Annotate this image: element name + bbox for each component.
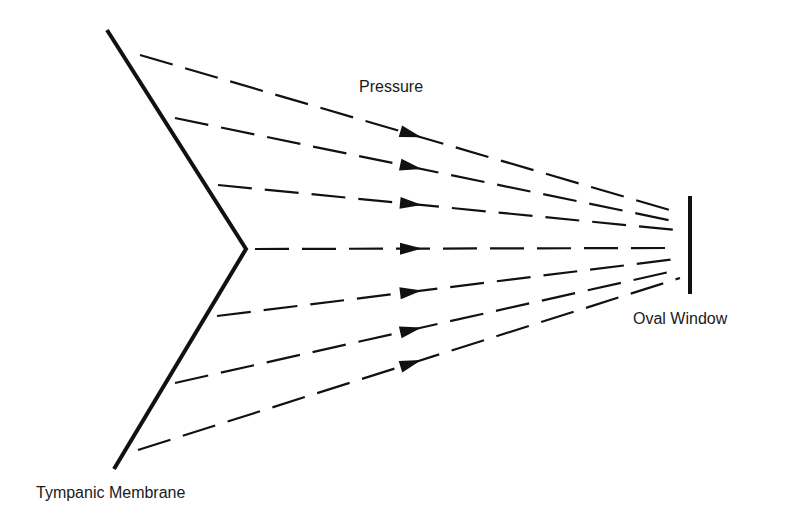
pressure-lines <box>138 55 680 450</box>
arrowhead-icon <box>399 159 423 175</box>
pressure-line <box>175 270 678 383</box>
tympanic-membrane-shape <box>107 30 246 469</box>
pressure-line <box>217 259 676 316</box>
arrowhead-icon <box>399 125 423 143</box>
arrowhead-icon <box>399 322 423 339</box>
pressure-line <box>255 248 668 249</box>
pressure-label: Pressure <box>359 78 423 96</box>
pressure-diagram: Pressure Oval Window Tympanic Membrane <box>0 0 793 520</box>
tympanic-membrane-label: Tympanic Membrane <box>36 484 185 502</box>
oval-window-label: Oval Window <box>633 310 727 328</box>
arrowhead-icon <box>400 243 422 255</box>
arrowhead-icon <box>399 354 424 372</box>
arrowhead-icon <box>399 197 422 211</box>
